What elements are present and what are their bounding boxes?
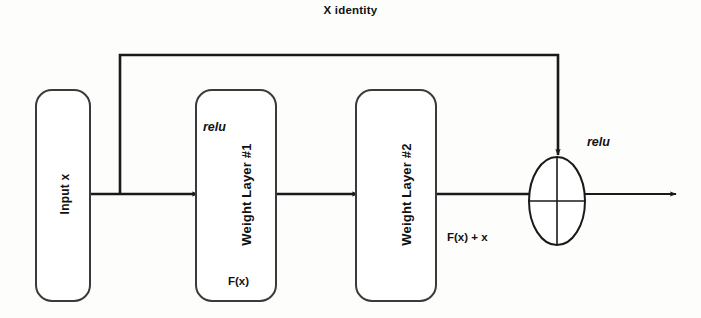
weight-layer-2-label: Weight Layer #2 — [400, 135, 413, 255]
residual-block-diagram: X identity Input x Weight Layer #1 Weigh… — [0, 0, 701, 318]
skip-connection-path — [120, 55, 558, 194]
weight-layer-1-label: Weight Layer #1 — [240, 135, 253, 255]
residual-function-label: F(x) — [228, 276, 249, 288]
weight-layer-2-block — [356, 90, 436, 301]
diagram-title: X identity — [0, 5, 701, 17]
input-block-label: Input x — [59, 144, 71, 244]
diagram-canvas — [0, 0, 701, 318]
sum-output-label: F(x) + x — [447, 232, 488, 244]
relu-after-layer1-label: relu — [203, 121, 226, 134]
relu-after-sum-label: relu — [587, 136, 610, 149]
